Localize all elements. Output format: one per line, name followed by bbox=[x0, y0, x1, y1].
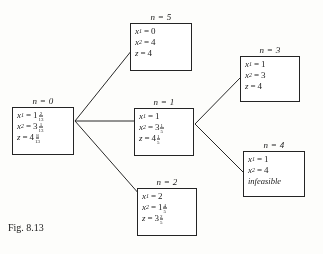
figure-canvas: n = 0 x1=1213 x2=3113 z=4813 n = 5 x1=0 … bbox=[0, 0, 323, 254]
value-whole: 3 bbox=[33, 121, 38, 132]
node-5-row-z: z=4 bbox=[135, 48, 187, 59]
equals-sign: = bbox=[148, 213, 153, 224]
equals-sign: = bbox=[254, 70, 259, 81]
variable-subscript: 1 bbox=[139, 26, 142, 37]
equals-sign: = bbox=[141, 48, 146, 59]
variable-subscript: 1 bbox=[249, 59, 252, 70]
variable-subscript: 2 bbox=[146, 202, 149, 213]
node-4-label: n = 4 bbox=[243, 140, 305, 150]
edge-1-to-4 bbox=[195, 124, 243, 172]
equals-sign: = bbox=[144, 26, 149, 37]
value-fraction: 113 bbox=[38, 122, 44, 133]
variable-name: z bbox=[142, 213, 146, 224]
variable-name: z bbox=[135, 48, 139, 59]
variable-subscript: 2 bbox=[21, 121, 24, 132]
node-5-row-x1: x1=0 bbox=[135, 26, 187, 37]
value-fraction: 213 bbox=[38, 111, 44, 122]
node-2-row-x1: x1=2 bbox=[142, 191, 192, 202]
variable-name: z bbox=[245, 81, 249, 92]
tree-node-0[interactable]: n = 0 x1=1213 x2=3113 z=4813 bbox=[12, 96, 74, 155]
tree-node-3[interactable]: n = 3 x1=1 x2=3 z=4 bbox=[240, 45, 300, 102]
node-0-row-x2: x2=3113 bbox=[17, 121, 69, 132]
equals-sign: = bbox=[144, 37, 149, 48]
variable-subscript: 2 bbox=[249, 70, 252, 81]
equals-sign: = bbox=[26, 121, 31, 132]
value-whole: 4 bbox=[258, 81, 263, 92]
tree-node-1[interactable]: n = 1 x1=1 x2=315 z=415 bbox=[134, 97, 194, 156]
variable-subscript: 1 bbox=[252, 154, 255, 165]
node-3-row-x2: x2=3 bbox=[245, 70, 295, 81]
value-whole: 4 bbox=[148, 48, 153, 59]
value-whole: 1 bbox=[261, 59, 266, 70]
value-whole: 3 bbox=[155, 122, 160, 133]
value-whole: 3 bbox=[155, 213, 160, 224]
value-whole: 1 bbox=[158, 202, 163, 213]
variable-subscript: 2 bbox=[143, 122, 146, 133]
equals-sign: = bbox=[257, 165, 262, 176]
value-whole: 4 bbox=[264, 165, 269, 176]
fraction-denominator: 5 bbox=[163, 209, 167, 214]
value-fraction: 15 bbox=[160, 123, 164, 134]
equals-sign: = bbox=[145, 133, 150, 144]
value-whole: 4 bbox=[152, 133, 157, 144]
node-1-row-z: z=415 bbox=[139, 133, 189, 144]
node-3-box: x1=1 x2=3 z=4 bbox=[240, 56, 300, 102]
value-fraction: 25 bbox=[160, 214, 164, 225]
tree-node-4[interactable]: n = 4 x1=1 x2=4 infeasible bbox=[243, 140, 305, 197]
equals-sign: = bbox=[251, 81, 256, 92]
value-whole: 4 bbox=[30, 132, 35, 143]
node-1-row-x1: x1=1 bbox=[139, 111, 189, 122]
value-fraction: 813 bbox=[35, 133, 41, 144]
equals-sign: = bbox=[257, 154, 262, 165]
edge-1-to-3 bbox=[195, 78, 240, 124]
node-1-box: x1=1 x2=315 z=415 bbox=[134, 108, 194, 156]
node-0-box: x1=1213 x2=3113 z=4813 bbox=[12, 107, 74, 155]
node-3-row-z: z=4 bbox=[245, 81, 295, 92]
value-whole: 1 bbox=[155, 111, 160, 122]
equals-sign: = bbox=[151, 191, 156, 202]
node-0-row-z: z=4813 bbox=[17, 132, 69, 143]
variable-subscript: 1 bbox=[146, 191, 149, 202]
fraction-denominator: 5 bbox=[160, 129, 164, 134]
node-3-row-x1: x1=1 bbox=[245, 59, 295, 70]
equals-sign: = bbox=[148, 122, 153, 133]
node-4-status: infeasible bbox=[248, 176, 300, 187]
variable-subscript: 1 bbox=[143, 111, 146, 122]
value-whole: 3 bbox=[261, 70, 266, 81]
value-whole: 1 bbox=[33, 110, 38, 121]
variable-subscript: 2 bbox=[139, 37, 142, 48]
value-whole: 4 bbox=[151, 37, 156, 48]
node-0-row-x1: x1=1213 bbox=[17, 110, 69, 121]
node-4-box: x1=1 x2=4 infeasible bbox=[243, 151, 305, 197]
node-2-label: n = 2 bbox=[137, 177, 197, 187]
edge-0-to-2 bbox=[75, 121, 140, 195]
variable-subscript: 2 bbox=[252, 165, 255, 176]
infeasible-label: infeasible bbox=[248, 176, 281, 187]
value-fraction: 15 bbox=[157, 134, 161, 145]
node-2-box: x1=2 x2=145 z=325 bbox=[137, 188, 197, 236]
equals-sign: = bbox=[26, 110, 31, 121]
node-5-label: n = 5 bbox=[130, 12, 192, 22]
equals-sign: = bbox=[148, 111, 153, 122]
edge-0-to-5 bbox=[75, 50, 132, 121]
node-5-row-x2: x2=4 bbox=[135, 37, 187, 48]
node-4-row-x2: x2=4 bbox=[248, 165, 300, 176]
equals-sign: = bbox=[23, 132, 28, 143]
equals-sign: = bbox=[254, 59, 259, 70]
tree-node-2[interactable]: n = 2 x1=2 x2=145 z=325 bbox=[137, 177, 197, 236]
equals-sign: = bbox=[151, 202, 156, 213]
value-whole: 2 bbox=[158, 191, 163, 202]
tree-node-5[interactable]: n = 5 x1=0 x2=4 z=4 bbox=[130, 12, 192, 71]
value-fraction: 45 bbox=[163, 203, 167, 214]
node-0-label: n = 0 bbox=[12, 96, 74, 106]
node-4-row-x1: x1=1 bbox=[248, 154, 300, 165]
fraction-denominator: 13 bbox=[35, 139, 41, 144]
figure-caption: Fig. 8.13 bbox=[8, 222, 44, 233]
node-1-label: n = 1 bbox=[134, 97, 194, 107]
variable-subscript: 1 bbox=[21, 110, 24, 121]
fraction-denominator: 5 bbox=[157, 140, 161, 145]
node-1-row-x2: x2=315 bbox=[139, 122, 189, 133]
node-2-row-z: z=325 bbox=[142, 213, 192, 224]
fraction-denominator: 5 bbox=[160, 220, 164, 225]
node-5-box: x1=0 x2=4 z=4 bbox=[130, 23, 192, 71]
